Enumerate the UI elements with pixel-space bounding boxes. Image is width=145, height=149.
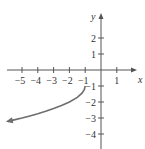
y-axis-label: y (90, 11, 96, 22)
x-axis-label: x (137, 74, 143, 85)
y-tick-label: −3 (85, 113, 96, 124)
x-tick-label: −2 (62, 75, 73, 86)
x-axis-arrow-icon (131, 68, 137, 73)
y-tick-label: −2 (85, 97, 96, 108)
graph: −5−4−3−2−1121−1−2−3−4 x y (0, 0, 145, 149)
y-tick-label: 2 (91, 33, 96, 44)
y-axis-arrow-icon (99, 13, 104, 19)
x-tick-label: 1 (114, 75, 119, 86)
curve-arrow-icon (6, 117, 13, 123)
x-tick-label: −4 (30, 75, 41, 86)
ticks (22, 38, 117, 134)
y-tick-label: −4 (85, 129, 96, 140)
x-tick-label: −5 (15, 75, 26, 86)
y-tick-label: −1 (85, 81, 96, 92)
x-tick-label: −3 (46, 75, 57, 86)
y-tick-label: 1 (91, 49, 96, 60)
function-curve (8, 86, 85, 121)
